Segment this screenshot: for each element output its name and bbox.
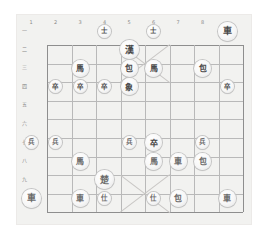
soldier-red-2[interactable]: 兵 [49,136,62,149]
horse-black-1[interactable]: 馬 [72,60,89,77]
cannon-red-2[interactable]: 包 [170,190,187,207]
soldier-red-1[interactable]: 兵 [25,136,38,149]
chariot-black-1[interactable]: 車 [218,22,237,41]
advisor-red-1[interactable]: 仕 [98,192,111,205]
horse-black-2[interactable]: 馬 [145,60,162,77]
soldier-red-3[interactable]: 兵 [123,136,136,149]
chariot-red-4[interactable]: 車 [219,190,236,207]
soldier-red-4[interactable]: 兵 [196,136,209,149]
advisor-red-2[interactable]: 仕 [147,192,160,205]
cannon-black-2[interactable]: 包 [194,60,211,77]
advisor-black-2[interactable]: 士 [147,25,160,38]
xiangqi-screenshot: 12345678一二三四五六七八九 士士車漢馬包馬包卒卒卒象卒兵兵兵卒兵馬馬車包… [0,0,268,239]
soldier-black-3[interactable]: 卒 [98,80,111,93]
pieces-layer: 士士車漢馬包馬包卒卒卒象卒兵兵兵卒兵馬馬車包楚車車仕仕包車 [0,0,268,239]
general-red[interactable]: 楚 [95,170,114,189]
board-panel: 12345678一二三四五六七八九 士士車漢馬包馬包卒卒卒象卒兵兵兵卒兵馬馬車包… [16,14,252,225]
cannon-red-1[interactable]: 包 [194,153,211,170]
advisor-black-1[interactable]: 士 [98,25,111,38]
chariot-red-1[interactable]: 車 [170,153,187,170]
cannon-black-1[interactable]: 包 [121,60,138,77]
chariot-red-2[interactable]: 車 [22,189,41,208]
soldier-black-1[interactable]: 卒 [49,80,62,93]
soldier-black-5[interactable]: 卒 [145,134,162,151]
horse-red-1[interactable]: 馬 [72,153,89,170]
soldier-black-2[interactable]: 卒 [74,80,87,93]
elephant-black-1[interactable]: 象 [121,78,138,95]
horse-red-2[interactable]: 馬 [145,153,162,170]
general-black[interactable]: 漢 [120,40,139,59]
soldier-black-4[interactable]: 卒 [221,80,234,93]
chariot-red-3[interactable]: 車 [72,190,89,207]
